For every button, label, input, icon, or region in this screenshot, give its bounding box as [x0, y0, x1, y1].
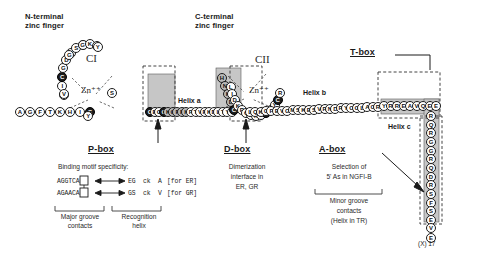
p-box-bracket-left-line-1: Major groove	[46, 213, 114, 220]
p-box-residues-1: EG ck A	[128, 178, 162, 185]
p-box-residues-2: GS ck V	[128, 190, 162, 197]
a-box-caption-line-2: 5' As in NGFI-B	[309, 173, 389, 180]
residue-bead: G	[64, 50, 74, 60]
d-box-caption-line-3: ER, GR	[211, 183, 283, 190]
residue-bead: Y	[83, 111, 93, 121]
a-box-bracket-line-2: contacts	[311, 207, 387, 214]
p-box-motif-1: AGGTCA	[57, 178, 79, 185]
residue-bead: G	[25, 107, 35, 117]
helix-b-label: Helix b	[303, 89, 326, 97]
residue-bead: K	[55, 107, 65, 117]
zinc-label-cii: Zn⁺⁺	[249, 85, 269, 95]
residue-bead: Y	[93, 42, 103, 52]
p-box-bracket-right-line-1: Recognition	[105, 213, 173, 220]
p-box-receptor-1: [for ER]	[167, 178, 197, 185]
terminus-label: (X) 17	[418, 240, 435, 247]
helix-a-label: Helix a	[178, 97, 201, 105]
a-box-bracket-line-3: (Helix in TR)	[311, 217, 387, 224]
zinc-label-ci: Zn⁺⁺	[81, 85, 101, 95]
residue-bead: C	[57, 72, 67, 82]
a-box-caption-line-1: Selection of	[311, 163, 387, 170]
p-box-label[interactable]: P-box	[88, 144, 114, 154]
residue-bead: R	[275, 88, 285, 98]
n-terminal-label: N-terminal zinc finger	[25, 13, 64, 30]
c-terminal-label: C-terminal zinc finger	[195, 13, 234, 30]
t-box-label[interactable]: T-box	[350, 47, 375, 57]
residue-bead: A	[15, 107, 25, 117]
p-box-motif-2: AGAACA	[57, 190, 79, 197]
helix-c-label: Helix c	[388, 123, 411, 131]
residue-bead: H	[65, 107, 75, 117]
residue-bead: S	[107, 88, 117, 98]
d-box-label[interactable]: D-box	[224, 144, 251, 154]
residue-bead: V	[426, 223, 436, 233]
a-box-bracket-line-1: Minor groove	[311, 197, 387, 204]
residue-bead: T	[45, 107, 55, 117]
cii-label: CII	[255, 53, 270, 65]
p-box-heading: Binding motif specificity:	[58, 163, 128, 170]
d-box-caption-line-1: Dimerization	[211, 163, 283, 170]
a-box-label[interactable]: A-box	[319, 144, 346, 154]
ci-label: CI	[86, 52, 97, 64]
p-box-receptor-2: [for GR]	[167, 190, 197, 197]
residue-bead: F	[35, 107, 45, 117]
d-box-caption-line-2: interface in	[211, 173, 283, 180]
residue-bead: E	[431, 101, 441, 111]
figure-root: AGFTKHICAICGDRSSGKHYGVYSCEGCKGFFKRTVRKDL…	[0, 0, 478, 261]
p-box-bracket-left-line-2: contacts	[46, 222, 114, 229]
p-box-bracket-right-line-2: helix	[105, 222, 173, 229]
